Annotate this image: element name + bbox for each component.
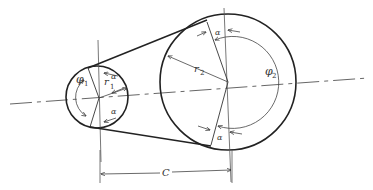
belt-drive-diagram: φ 1 r 1 α α r 2 φ 2 α α C bbox=[0, 0, 373, 190]
phi2-subscript: 2 bbox=[272, 72, 276, 80]
alpha-large-top-label: α bbox=[215, 28, 221, 37]
labels: φ 1 r 1 α α r 2 φ 2 α α C bbox=[76, 28, 276, 178]
alpha-small-bottom-label: α bbox=[111, 107, 117, 116]
centerline bbox=[10, 78, 368, 104]
center-distance-label: C bbox=[162, 167, 170, 178]
phi1-label: φ bbox=[76, 73, 84, 86]
small-pulley bbox=[66, 40, 128, 162]
alpha-large-bottom-label: α bbox=[217, 133, 223, 142]
large-pulley bbox=[160, 8, 296, 182]
r1-subscript: 1 bbox=[110, 83, 114, 91]
phi1-subscript: 1 bbox=[84, 80, 88, 88]
r2-subscript: 2 bbox=[200, 69, 204, 77]
alpha-small-top-label: α bbox=[111, 72, 117, 81]
